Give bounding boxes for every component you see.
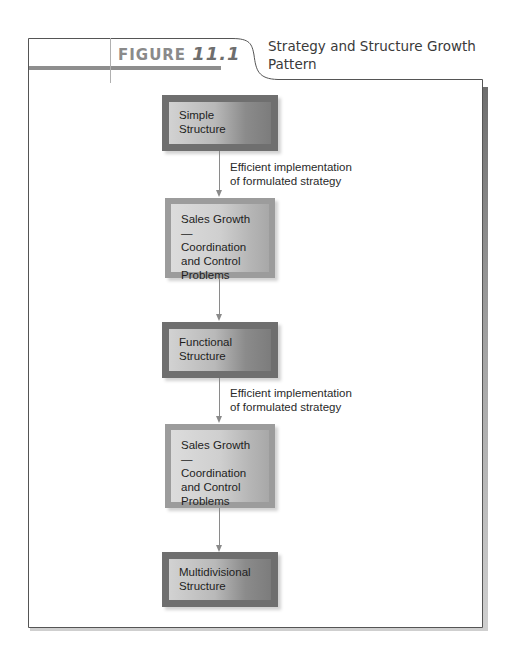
edge-label-line: Efficient implementation xyxy=(230,386,352,400)
node-text-line: and Control xyxy=(181,254,259,268)
arrow-line xyxy=(219,508,220,546)
node-text-line: Problems xyxy=(181,494,259,508)
edge-label-line: of formulated strategy xyxy=(230,400,352,414)
arrow-head-icon xyxy=(216,190,222,197)
arrow-line xyxy=(219,151,220,191)
edge-label-line: of formulated strategy xyxy=(230,174,352,188)
node-functional-structure: Functional Structure xyxy=(162,322,278,378)
node-text-line: Structure xyxy=(179,122,261,136)
edge-label: Efficient implementation of formulated s… xyxy=(230,160,352,188)
figure-label: FIGURE11.1 xyxy=(118,43,241,64)
node-simple-structure: Simple Structure xyxy=(162,95,278,151)
node-text-line: Multidivisional xyxy=(179,565,261,579)
arrow-line xyxy=(219,378,220,417)
node-text-line: Problems xyxy=(181,268,259,282)
arrow-line xyxy=(219,278,220,315)
edge-label-line: Efficient implementation xyxy=(230,160,352,174)
node-text-line: Structure xyxy=(179,349,261,363)
figure-label-text: FIGURE xyxy=(118,46,186,64)
arrow-head-icon xyxy=(216,416,222,423)
edge-label: Efficient implementation of formulated s… xyxy=(230,386,352,414)
figure-title: Strategy and Structure Growth Pattern xyxy=(268,37,478,73)
node-text-line: and Control xyxy=(181,480,259,494)
node-text-line: Simple xyxy=(179,108,261,122)
figure-number: 11.1 xyxy=(192,43,240,64)
node-text-line: Sales Growth— xyxy=(181,438,259,466)
node-sales-growth-1-body: Sales Growth— Coordination and Control P… xyxy=(171,204,269,272)
node-sales-growth-1: Sales Growth— Coordination and Control P… xyxy=(165,198,275,278)
node-text-line: Structure xyxy=(179,579,261,593)
node-functional-structure-body: Functional Structure xyxy=(169,329,271,371)
node-sales-growth-2-body: Sales Growth— Coordination and Control P… xyxy=(171,430,269,502)
figure-label-divider xyxy=(110,38,111,83)
node-multidivisional-structure: Multidivisional Structure xyxy=(162,552,278,607)
node-sales-growth-2: Sales Growth— Coordination and Control P… xyxy=(165,424,275,508)
arrow-head-icon xyxy=(216,314,222,321)
node-multidivisional-structure-body: Multidivisional Structure xyxy=(169,559,271,600)
arrow-head-icon xyxy=(216,545,222,552)
node-simple-structure-body: Simple Structure xyxy=(169,102,271,144)
node-text-line: Coordination xyxy=(181,240,259,254)
node-text-line: Coordination xyxy=(181,466,259,480)
node-text-line: Sales Growth— xyxy=(181,212,259,240)
node-text-line: Functional xyxy=(179,335,261,349)
